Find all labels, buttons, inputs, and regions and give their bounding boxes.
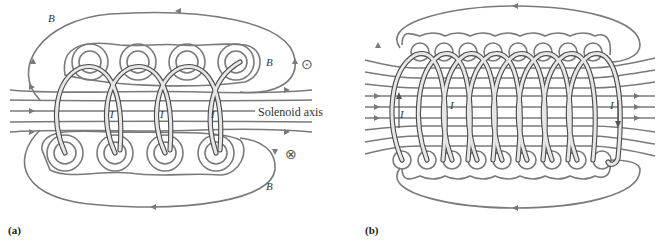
panel-a-label: (a) [8, 224, 21, 236]
solenoid-a-diagram [0, 0, 340, 249]
field-label-b-top-right: B⃗ [266, 56, 281, 68]
current-label-3: I [211, 108, 215, 120]
field-line-top-wavy [402, 33, 610, 55]
current-label-middle: I [450, 99, 454, 111]
current-label-right: I [610, 99, 614, 111]
solenoid-axis-label: Solenoid axis [257, 105, 324, 120]
solenoid-wire [392, 54, 620, 165]
field-label-b-bottom-right: B⃗ [266, 180, 281, 192]
solenoid-b-diagram [340, 0, 669, 249]
panel-b-label: (b) [365, 224, 378, 236]
panel-a-loosely-wound-solenoid: B⃗ B⃗ B⃗ ⊙ ⊗ Solenoid axis I I I (a) [0, 0, 340, 249]
panel-b-tightly-wound-solenoid: I I I (b) [340, 0, 669, 249]
current-label-left: I [400, 108, 404, 120]
out-of-page-symbol: ⊙ [301, 56, 313, 73]
field-label-b-top-left: B⃗ [48, 12, 63, 24]
current-label-1: I [110, 108, 114, 120]
current-label-2: I [160, 108, 164, 120]
field-circles-bottom [47, 135, 234, 171]
into-page-symbol: ⊗ [285, 146, 297, 163]
